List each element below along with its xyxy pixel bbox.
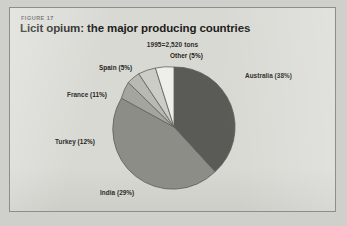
figure-subtitle: 1995=2,520 tons	[10, 41, 335, 48]
pie-label-india: India (29%)	[100, 189, 134, 196]
pie-label-other: Other (5%)	[170, 52, 203, 59]
pie-label-france: France (11%)	[67, 91, 107, 98]
pie-label-spain: Spain (5%)	[99, 64, 132, 71]
pie-label-australia: Australia (38%)	[245, 72, 292, 79]
pie-chart	[111, 64, 237, 190]
figure-source: Source: UN.	[23, 211, 52, 212]
figure-title: Licit opium: the major producing countri…	[20, 22, 250, 34]
figure-number-label: FIGURE 17	[21, 15, 54, 21]
pie-chart-svg	[111, 64, 237, 190]
figure-panel: FIGURE 17 Licit opium: the major produci…	[9, 7, 336, 212]
pie-label-turkey: Turkey (12%)	[55, 138, 95, 145]
